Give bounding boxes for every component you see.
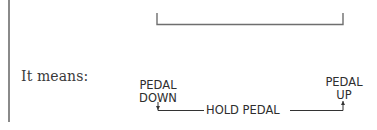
pedal-down-label: PEDAL DOWN	[128, 79, 188, 105]
arrow-up-icon	[341, 101, 345, 111]
pedal-down-line2: DOWN	[128, 92, 188, 105]
pedal-bracket-diagram	[0, 0, 377, 130]
pedal-up-line2: UP	[314, 89, 374, 102]
pedal-mark-bracket	[157, 13, 343, 25]
pedal-up-label: PEDAL UP	[314, 76, 374, 102]
hold-pedal-label: HOLD PEDAL	[204, 103, 282, 117]
it-means-label: It means:	[21, 68, 88, 84]
